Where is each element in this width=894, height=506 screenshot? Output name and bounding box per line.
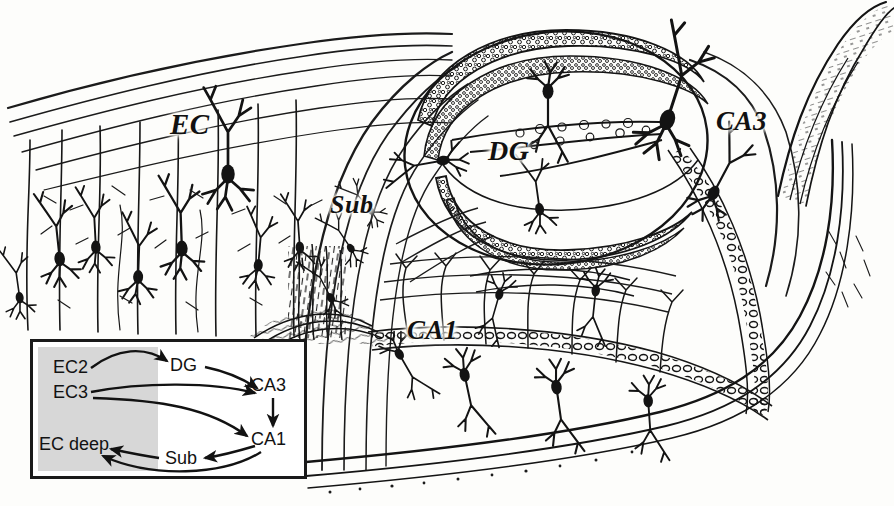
circuit-inset: EC2 EC3 EC deep DG CA3 CA1 Sub (30, 339, 307, 479)
inset-node-sub: Sub (165, 449, 197, 467)
inset-node-ec2: EC2 (53, 358, 88, 376)
inset-node-ca1: CA1 (251, 430, 286, 448)
inset-node-ec-deep: EC deep (39, 435, 109, 453)
inset-node-ec3: EC3 (53, 383, 88, 401)
inset-node-ca3: CA3 (251, 376, 286, 394)
inset-node-dg: DG (170, 356, 197, 374)
figure-canvas: EC Sub DG CA3 CA1 (0, 0, 894, 506)
